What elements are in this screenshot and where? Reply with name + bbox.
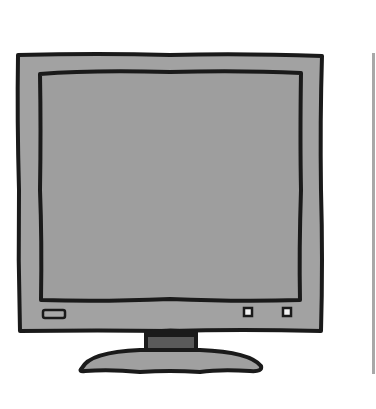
vertical-divider bbox=[372, 53, 375, 374]
control-button-1 bbox=[244, 308, 252, 316]
power-button bbox=[43, 310, 65, 318]
monitor-illustration bbox=[0, 0, 376, 409]
stand-neck-inner bbox=[148, 337, 194, 349]
stand-base bbox=[81, 350, 262, 372]
control-button-2 bbox=[283, 308, 291, 316]
monitor-screen bbox=[40, 71, 301, 301]
